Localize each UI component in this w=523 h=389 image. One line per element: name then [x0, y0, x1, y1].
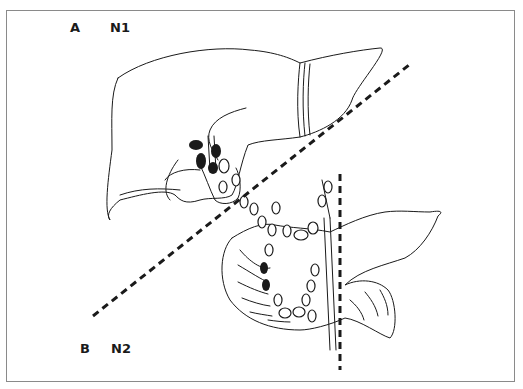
negative-lymph-nodes	[219, 159, 332, 322]
anatomy-illustration	[0, 0, 523, 389]
positive-lymph-nodes	[189, 140, 270, 291]
